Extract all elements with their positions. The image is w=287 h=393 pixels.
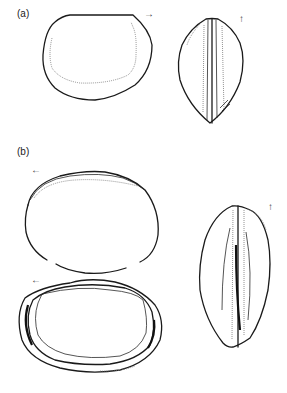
panel-b-valve-view-outline <box>25 172 158 274</box>
panel-a-girdle-view <box>178 19 243 124</box>
panel-b-valve-view-layered <box>19 280 162 372</box>
panel-a-valve-view <box>43 15 152 100</box>
panel-b-girdle-view <box>200 206 270 347</box>
figure-drawing <box>0 0 287 393</box>
